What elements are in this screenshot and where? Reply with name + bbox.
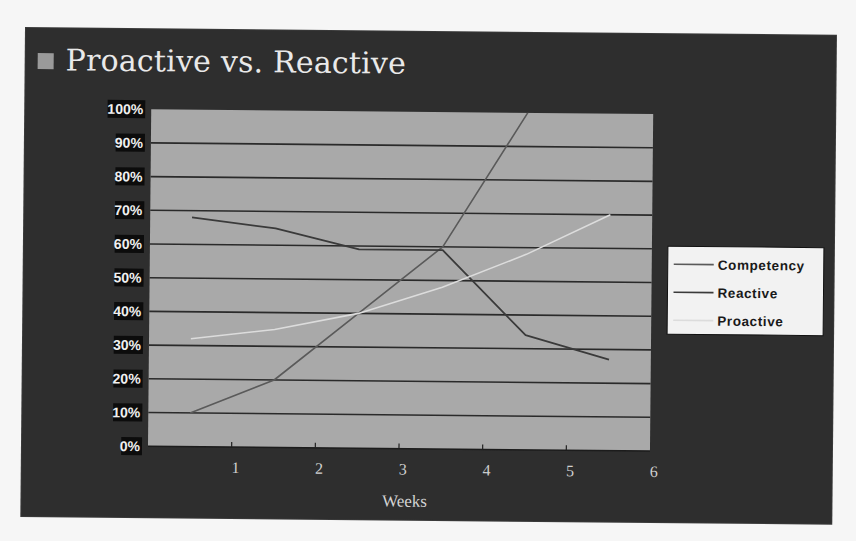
x-tick-label: 4 [482,461,490,478]
legend-label: Reactive [717,286,777,302]
x-tick-label: 2 [315,460,323,477]
y-tick: 10% [112,403,142,421]
y-tick-label: 80% [114,168,143,184]
y-tick: 80% [114,167,144,185]
y-tick: 30% [113,336,143,354]
y-tick-label: 90% [115,135,144,151]
y-tick-label: 70% [114,202,143,218]
legend-label: Competency [718,258,805,274]
y-tick: 60% [114,235,144,253]
y-tick: 20% [113,369,143,387]
y-tick-label: 100% [107,101,144,117]
x-tick-label: 5 [566,462,574,479]
chart-legend: CompetencyReactiveProactive [667,246,824,335]
y-tick-label: 60% [114,236,143,252]
x-tick-label: 6 [650,463,658,480]
y-tick: 0% [120,437,142,455]
y-tick: 100% [107,100,145,118]
y-tick: 40% [113,302,143,320]
legend-label: Proactive [717,314,783,330]
y-tick: 70% [114,201,144,219]
y-tick-label: 40% [113,303,142,319]
page: Proactive vs. Reactive 0%10%20%30%40%50%… [0,0,856,541]
x-axis-title: Weeks [382,491,427,510]
y-tick-label: 10% [112,404,141,420]
y-tick: 90% [115,134,145,152]
y-tick-label: 30% [113,337,142,353]
line-chart: 0%10%20%30%40%50%60%70%80%90%100% 123456… [21,28,836,524]
y-axis: 0%10%20%30%40%50%60%70%80%90%100% [104,100,145,455]
x-tick-label: 3 [399,461,407,478]
x-tick-label: 1 [231,459,239,476]
y-tick-label: 20% [113,370,142,386]
y-tick-label: 0% [120,438,141,454]
presentation-slide: Proactive vs. Reactive 0%10%20%30%40%50%… [21,28,836,524]
y-tick-label: 50% [114,269,143,285]
y-tick: 50% [113,268,143,286]
